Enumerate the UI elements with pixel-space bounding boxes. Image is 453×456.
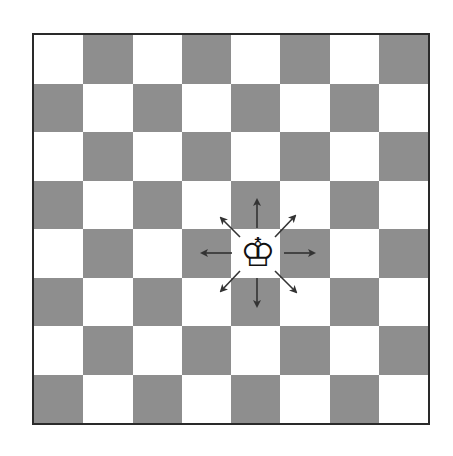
square-e7[interactable] [231, 84, 280, 133]
square-c4[interactable] [133, 229, 182, 278]
square-b4[interactable] [83, 229, 132, 278]
square-b6[interactable] [83, 132, 132, 181]
square-a4[interactable] [34, 229, 83, 278]
square-g2[interactable] [330, 326, 379, 375]
square-f3[interactable] [280, 278, 329, 327]
square-a5[interactable] [34, 181, 83, 230]
square-g5[interactable] [330, 181, 379, 230]
square-e5[interactable] [231, 181, 280, 230]
square-d5[interactable] [182, 181, 231, 230]
square-e6[interactable] [231, 132, 280, 181]
square-h7[interactable] [379, 84, 428, 133]
square-g4[interactable] [330, 229, 379, 278]
square-f1[interactable] [280, 375, 329, 424]
square-b7[interactable] [83, 84, 132, 133]
square-a7[interactable] [34, 84, 83, 133]
square-d7[interactable] [182, 84, 231, 133]
square-a3[interactable] [34, 278, 83, 327]
square-g3[interactable] [330, 278, 379, 327]
square-c7[interactable] [133, 84, 182, 133]
square-d2[interactable] [182, 326, 231, 375]
square-d6[interactable] [182, 132, 231, 181]
square-f5[interactable] [280, 181, 329, 230]
square-f6[interactable] [280, 132, 329, 181]
square-c3[interactable] [133, 278, 182, 327]
square-h6[interactable] [379, 132, 428, 181]
square-f4[interactable] [280, 229, 329, 278]
square-f2[interactable] [280, 326, 329, 375]
square-e1[interactable] [231, 375, 280, 424]
square-g7[interactable] [330, 84, 379, 133]
square-e3[interactable] [231, 278, 280, 327]
white-king-piece[interactable]: ♔ [238, 229, 278, 275]
square-d4[interactable] [182, 229, 231, 278]
square-c5[interactable] [133, 181, 182, 230]
square-c8[interactable] [133, 35, 182, 84]
square-g6[interactable] [330, 132, 379, 181]
square-h8[interactable] [379, 35, 428, 84]
square-h5[interactable] [379, 181, 428, 230]
square-h4[interactable] [379, 229, 428, 278]
square-h1[interactable] [379, 375, 428, 424]
square-c6[interactable] [133, 132, 182, 181]
square-a8[interactable] [34, 35, 83, 84]
square-f7[interactable] [280, 84, 329, 133]
square-e2[interactable] [231, 326, 280, 375]
square-g8[interactable] [330, 35, 379, 84]
square-g1[interactable] [330, 375, 379, 424]
square-f8[interactable] [280, 35, 329, 84]
square-c2[interactable] [133, 326, 182, 375]
square-c1[interactable] [133, 375, 182, 424]
square-b8[interactable] [83, 35, 132, 84]
square-h2[interactable] [379, 326, 428, 375]
square-d3[interactable] [182, 278, 231, 327]
chess-board [32, 33, 430, 425]
square-d8[interactable] [182, 35, 231, 84]
square-a2[interactable] [34, 326, 83, 375]
square-b1[interactable] [83, 375, 132, 424]
square-b2[interactable] [83, 326, 132, 375]
square-h3[interactable] [379, 278, 428, 327]
square-d1[interactable] [182, 375, 231, 424]
square-b3[interactable] [83, 278, 132, 327]
square-b5[interactable] [83, 181, 132, 230]
square-a6[interactable] [34, 132, 83, 181]
square-e8[interactable] [231, 35, 280, 84]
square-a1[interactable] [34, 375, 83, 424]
